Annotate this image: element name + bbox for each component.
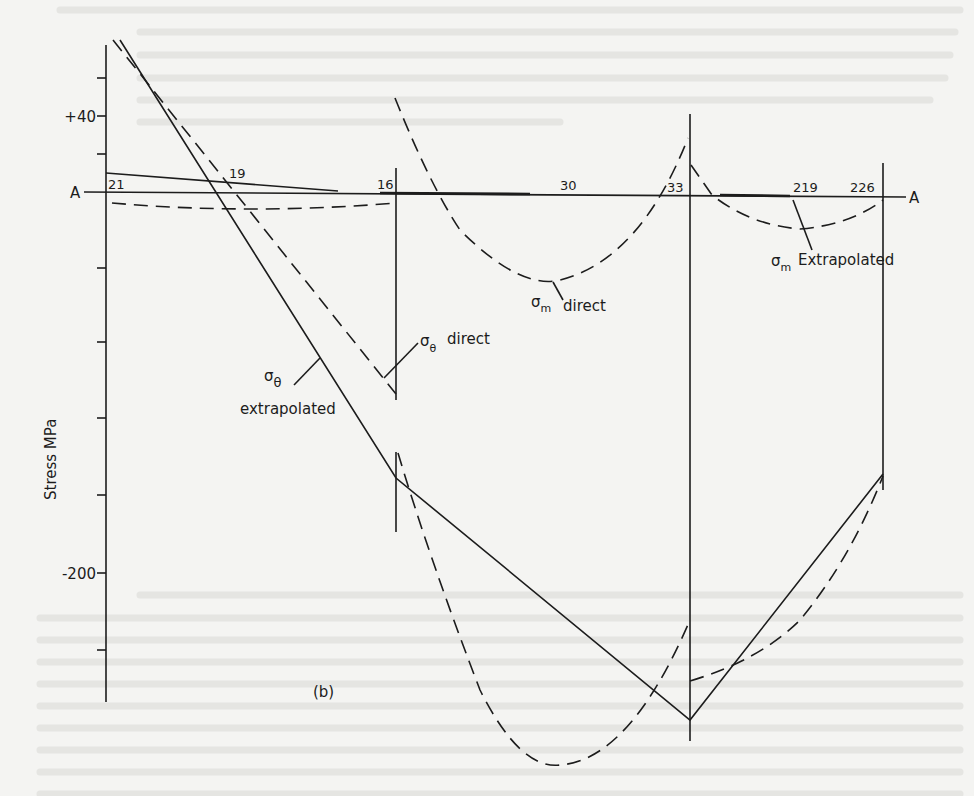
svg-text:σm: σm xyxy=(531,293,551,315)
series-sigma-m-direct-left xyxy=(112,203,396,209)
label-extrapolated: extrapolated xyxy=(240,400,336,418)
section-label-a-left: A xyxy=(70,184,81,202)
y-tick-label-minus200: -200 xyxy=(62,565,96,583)
gauge-point-labels: 21 19 16 30 33 219 226 xyxy=(108,166,875,195)
section-label-a-right: A xyxy=(909,189,920,207)
svg-text:σm: σm xyxy=(771,252,791,274)
svg-text:σθ: σθ xyxy=(264,367,282,390)
station-lines xyxy=(396,114,883,741)
annotation-sigma-m-extrapolated: σm Extrapolated xyxy=(771,200,894,274)
y-tick-label-plus40: +40 xyxy=(64,108,96,126)
label-extrapolated-m: Extrapolated xyxy=(798,251,894,269)
series-sigma-theta-direct-right xyxy=(690,476,883,681)
annotation-sigma-m-direct: σm direct xyxy=(531,282,606,315)
label-direct-m: direct xyxy=(563,297,606,315)
svg-text:σθ: σθ xyxy=(420,332,437,355)
panel-label: (b) xyxy=(313,683,334,701)
point-label-33: 33 xyxy=(667,180,684,195)
series-sigma-m-extrapolated-left xyxy=(106,173,338,191)
y-axis-label: Stress MPa xyxy=(42,419,60,500)
show-through-background xyxy=(40,10,960,794)
y-axis: +40 -200 Stress MPa xyxy=(42,45,106,702)
series-sigma-theta-direct-mid xyxy=(398,453,690,765)
series-sigma-m-direct-center xyxy=(395,98,688,281)
series-sigma-theta-direct-left xyxy=(113,40,396,394)
point-label-21: 21 xyxy=(108,177,125,192)
label-direct-theta: direct xyxy=(447,330,490,348)
point-label-16: 16 xyxy=(377,177,394,192)
point-label-226: 226 xyxy=(850,180,875,195)
point-label-19: 19 xyxy=(229,166,246,181)
stress-chart: +40 -200 Stress MPa A A 21 19 16 30 33 2… xyxy=(0,0,974,796)
annotation-sigma-theta-extrapolated: σθ extrapolated xyxy=(240,358,336,418)
point-label-219: 219 xyxy=(793,180,818,195)
point-label-30: 30 xyxy=(560,178,577,193)
figure-canvas: +40 -200 Stress MPa A A 21 19 16 30 33 2… xyxy=(0,0,974,796)
annotation-sigma-theta-direct: σθ direct xyxy=(384,330,490,378)
